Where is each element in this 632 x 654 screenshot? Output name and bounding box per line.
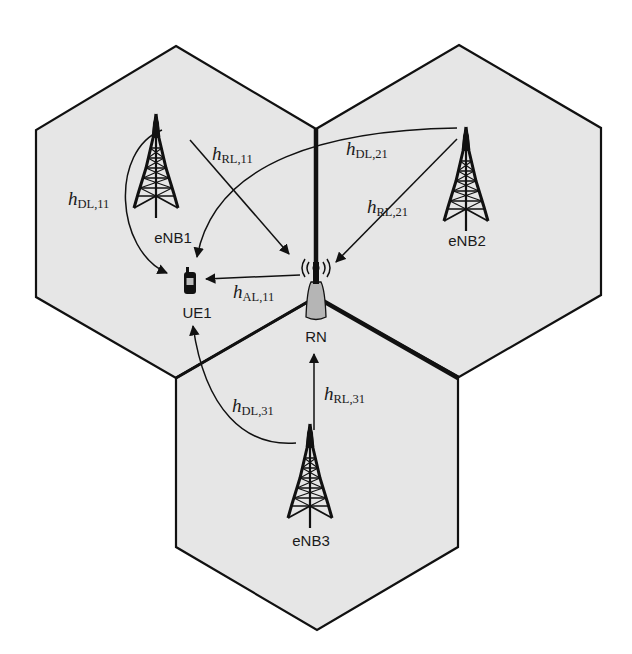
enb1-label: eNB1: [154, 229, 192, 246]
rn-label: RN: [305, 328, 327, 345]
enb2-label: eNB2: [448, 232, 486, 249]
enb3-label: eNB3: [292, 532, 330, 549]
relay-network-diagram: eNB1 eNB2 eNB3 RN UE1 hDL,11 hRL,11 hDL,…: [0, 0, 632, 654]
ue1-label: UE1: [182, 304, 211, 321]
